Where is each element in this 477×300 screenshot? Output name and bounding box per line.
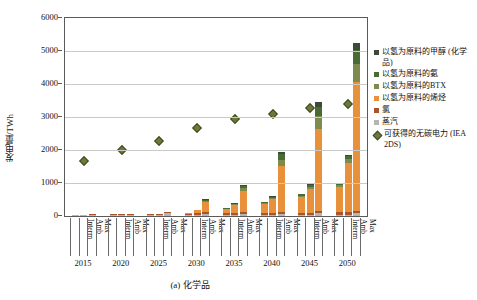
y-tick-label: 1000 <box>41 177 58 187</box>
x-tick-separator <box>360 218 361 256</box>
legend-label: 可获得的无碳电力 (IEA 2DS) <box>384 129 476 150</box>
y-tick-mark <box>58 50 62 51</box>
legend-item: 氯 <box>374 105 476 116</box>
bar-segment <box>231 205 238 213</box>
bar-segment <box>89 215 96 216</box>
bar-2045-interm <box>298 194 305 216</box>
bar-segment <box>345 163 352 212</box>
x-tick-separator <box>247 218 248 256</box>
bar-segment <box>336 187 343 212</box>
bar-segment <box>307 215 314 216</box>
bar-segment <box>353 82 360 211</box>
bar-segment <box>269 215 276 216</box>
bar-2045-amb <box>307 184 314 216</box>
bar-segment <box>156 215 163 216</box>
bar-2025-interm <box>147 214 154 216</box>
scatter-point <box>305 103 315 113</box>
bar-2020-amb <box>118 214 125 216</box>
y-tick-mark <box>58 17 62 18</box>
bar-2025-amb <box>156 214 163 216</box>
legend-label: 蒸汽 <box>382 117 398 128</box>
bar-segment <box>261 204 268 213</box>
scatter-point <box>79 156 89 166</box>
bar-segment <box>315 107 322 117</box>
legend-item: 以氢为原料的甲醇 (化学品) <box>374 47 476 68</box>
y-tick-label: 3000 <box>41 111 58 121</box>
scatter-point <box>343 100 353 110</box>
legend-swatch-square-icon <box>374 72 379 77</box>
bar-2050-interm <box>336 183 343 216</box>
bar-2040-amb <box>269 196 276 216</box>
chart-figure: 发电量/TWh 0100020003000400050006000 Interm… <box>0 0 477 300</box>
legend-label: 氯 <box>382 105 390 116</box>
gridline <box>65 183 367 184</box>
bar-segment <box>118 215 125 216</box>
y-tick-mark <box>58 149 62 150</box>
x-tick-separator <box>322 218 323 256</box>
bar-segment <box>315 116 322 129</box>
legend-item: 以氢为原料的BTX <box>374 81 476 92</box>
bar-segment <box>185 215 192 216</box>
legend-item: 蒸汽 <box>374 117 476 128</box>
x-tick-separator <box>209 218 210 256</box>
bar-segment <box>127 215 134 216</box>
bar-2030-amb <box>194 210 201 216</box>
bar-segment <box>72 215 79 216</box>
bar-2015-max <box>89 214 96 216</box>
scatter-point <box>230 114 240 124</box>
bar-segment <box>269 199 276 213</box>
bar-2035-max <box>240 185 247 216</box>
scatter-point <box>154 136 164 146</box>
gridline <box>65 117 367 118</box>
bar-2025-max <box>164 212 171 216</box>
figure-caption: (a) 化学品 <box>0 278 380 291</box>
bar-segment <box>110 215 117 216</box>
y-tick-mark <box>58 215 62 216</box>
legend-label: 以氢为原料的烯烃 <box>382 93 446 104</box>
bar-segment <box>231 215 238 216</box>
x-tick-separator <box>96 218 97 256</box>
bar-segment <box>261 215 268 216</box>
legend-item: 可获得的无碳电力 (IEA 2DS) <box>374 129 476 150</box>
bar-2045-max <box>315 102 322 216</box>
y-axis-label: 发电量/TWh <box>2 78 16 198</box>
legend-item: 以氢为原料的烯烃 <box>374 93 476 104</box>
bar-segment <box>194 215 201 216</box>
bar-segment <box>223 215 230 216</box>
x-tick-separator <box>284 218 285 256</box>
legend-label: 以氢为原料的甲醇 (化学品) <box>382 47 476 68</box>
gridline <box>65 51 367 52</box>
plot-area <box>64 17 368 217</box>
legend-item: 以氢为原料的氨 <box>374 69 476 80</box>
legend-swatch-square-icon <box>374 108 379 113</box>
bar-segment <box>298 215 305 216</box>
bar-2040-interm <box>261 202 268 216</box>
legend: 以氢为原料的甲醇 (化学品)以氢为原料的氨以氢为原料的BTX以氢为原料的烯烃氯蒸… <box>374 47 476 151</box>
bar-segment <box>353 64 360 82</box>
y-tick-label: 6000 <box>41 12 58 22</box>
y-tick-mark <box>58 116 62 117</box>
legend-swatch-square-icon <box>374 84 379 89</box>
bar-2035-interm <box>223 208 230 216</box>
bar-segment <box>278 214 285 216</box>
scatter-point <box>192 123 202 133</box>
bar-segment <box>315 213 322 216</box>
bar-2030-max <box>202 199 209 216</box>
bar-segment <box>353 213 360 216</box>
x-tick-separator <box>171 218 172 256</box>
bar-2050-amb <box>345 155 352 216</box>
y-tick-label: 5000 <box>41 45 58 55</box>
y-tick-label: 4000 <box>41 78 58 88</box>
bar-2015-interm <box>72 215 79 216</box>
bar-segment <box>80 215 87 216</box>
bar-segment <box>307 189 314 213</box>
gridline <box>65 84 367 85</box>
bar-segment <box>240 191 247 212</box>
y-tick-mark <box>58 83 62 84</box>
bar-2035-amb <box>231 203 238 216</box>
bar-segment <box>278 160 285 167</box>
bar-segment <box>147 215 154 216</box>
bar-segment <box>240 214 247 216</box>
x-axis: IntermAmbMax2015IntermAmbMax2020IntermAm… <box>64 218 368 276</box>
legend-swatch-square-icon <box>374 120 379 125</box>
